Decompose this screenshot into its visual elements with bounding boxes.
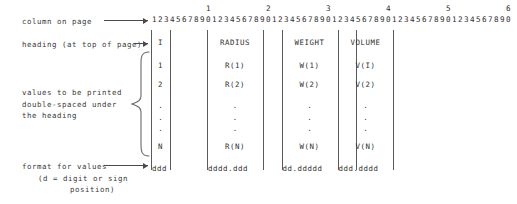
heading-cell-i: I (151, 38, 170, 47)
print-layout-diagram: 1 2 3 4 5 6 1234567890123456789012345678… (0, 0, 517, 204)
arrow-format-for-values (104, 162, 148, 169)
label-format-for-values: format for values (22, 161, 107, 173)
data-cell-radius-1: R(1) (207, 61, 263, 70)
ruler-ones-digits: 1234567890123456789012345678901234567890… (152, 15, 512, 24)
format-cell-radius: dddd.ddd (207, 164, 264, 173)
data-cell-volume-n: V(N) (338, 142, 394, 151)
format-cell-volume: ddd.dddd (338, 164, 395, 173)
arrow-heading (134, 40, 148, 47)
ellipsis-column-weight: . . . (282, 100, 338, 135)
data-cell-volume-1: V(I) (338, 61, 394, 70)
label-format-legend-line2: position) (70, 184, 115, 196)
label-values-note-line1: values to be printed (22, 87, 122, 99)
data-cell-weight-n: W(N) (282, 142, 338, 151)
arrow-column-on-page (104, 17, 148, 24)
heading-cell-weight: WEIGHT (282, 38, 338, 47)
ruler-tens-markers: 1 2 3 4 5 6 (152, 4, 512, 13)
column-rule-4 (263, 30, 264, 170)
heading-cell-volume: VOLUME (338, 38, 394, 47)
data-cell-volume-2: V(2) (338, 80, 394, 89)
data-cell-radius-2: R(2) (207, 80, 263, 89)
data-cell-i-1: 1 (151, 61, 170, 70)
label-heading-at-top-of-page: heading (at top of page) (22, 39, 142, 51)
format-cell-i: ddd (151, 164, 171, 173)
label-values-note-line3: the heading (22, 110, 77, 122)
ellipsis-column-i: . . . (151, 100, 170, 135)
ellipsis-column-radius: . . . (207, 100, 263, 135)
data-cell-radius-n: R(N) (207, 142, 263, 151)
heading-cell-radius: RADIUS (207, 38, 263, 47)
label-column-on-page: column on page (22, 16, 92, 28)
ellipsis-column-volume: . . . (338, 100, 394, 135)
data-cell-weight-1: W(1) (282, 61, 338, 70)
data-cell-i-2: 2 (151, 80, 170, 89)
data-cell-i-n: N (151, 142, 170, 151)
label-format-legend-line1: (d = digit or sign (38, 173, 128, 185)
label-values-note-line2: double-spaced under (22, 99, 117, 111)
format-cell-weight: dd.ddddd (282, 164, 339, 173)
data-cell-weight-2: W(2) (282, 80, 338, 89)
